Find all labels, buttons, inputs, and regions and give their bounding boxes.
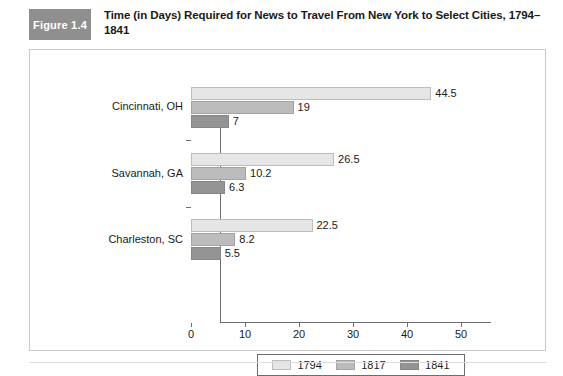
chart-legend: 179418171841: [257, 354, 465, 376]
legend-item-1841[interactable]: 1841: [400, 359, 449, 371]
figure-header: Figure 1.4 Time (in Days) Required for N…: [29, 9, 547, 47]
figure-number-badge: Figure 1.4: [29, 9, 91, 40]
bar-value-label: 19: [294, 100, 310, 114]
x-axis-tick-label: 50: [455, 328, 467, 340]
bar-value-label: 26.5: [334, 152, 359, 166]
legend-label: 1841: [425, 359, 449, 371]
bar-1817[interactable]: [191, 167, 246, 180]
x-axis-tick: [191, 323, 192, 327]
legend-item-1817[interactable]: 1817: [336, 359, 385, 371]
legend-label: 1794: [297, 359, 321, 371]
bar-group: 22.58.25.5: [191, 219, 461, 261]
bar-row: 22.5: [191, 219, 461, 232]
bar-group: 26.510.26.3: [191, 153, 461, 195]
x-axis-tick-label: 40: [401, 328, 413, 340]
x-axis-tick-label: 30: [347, 328, 359, 340]
bottom-divider: [29, 362, 547, 363]
bar-value-label: 8.2: [235, 232, 254, 246]
x-axis-tick: [461, 323, 462, 327]
chart-panel: 0102030405044.5197Cincinnati, OH26.510.2…: [29, 49, 546, 351]
figure-title: Time (in Days) Required for News to Trav…: [104, 8, 549, 38]
category-label: Savannah, GA: [33, 167, 183, 179]
bar-value-label: 7: [229, 114, 239, 128]
bar-row: 26.5: [191, 153, 461, 166]
bar-1841[interactable]: [191, 115, 229, 128]
y-axis-tick: [186, 140, 191, 141]
bar-row: 8.2: [191, 233, 461, 246]
bar-1817[interactable]: [191, 233, 235, 246]
bar-row: 5.5: [191, 247, 461, 260]
bar-row: 10.2: [191, 167, 461, 180]
x-axis-line: [220, 322, 491, 323]
bar-1841[interactable]: [191, 247, 221, 260]
legend-label: 1817: [361, 359, 385, 371]
x-axis-tick-label: 10: [239, 328, 251, 340]
bar-row: 19: [191, 101, 461, 114]
bar-value-label: 5.5: [221, 246, 240, 260]
bar-value-label: 10.2: [246, 166, 271, 180]
x-axis-tick: [353, 323, 354, 327]
bar-value-label: 6.3: [225, 180, 244, 194]
y-axis-tick: [186, 207, 191, 208]
x-axis-tick: [299, 323, 300, 327]
x-axis-tick-label: 0: [188, 328, 194, 340]
bar-1794[interactable]: [191, 153, 334, 166]
bar-row: 7: [191, 115, 461, 128]
bar-1794[interactable]: [191, 219, 313, 232]
legend-item-1794[interactable]: 1794: [272, 359, 321, 371]
bar-row: 44.5: [191, 87, 461, 100]
x-axis-tick-label: 20: [293, 328, 305, 340]
bar-group: 44.5197: [191, 87, 461, 129]
category-label: Charleston, SC: [33, 233, 183, 245]
bar-row: 6.3: [191, 181, 461, 194]
x-axis-tick: [407, 323, 408, 327]
bar-1794[interactable]: [191, 87, 431, 100]
x-axis-tick: [245, 323, 246, 327]
bar-value-label: 44.5: [431, 86, 456, 100]
bar-1817[interactable]: [191, 101, 294, 114]
category-label: Cincinnati, OH: [33, 100, 183, 112]
bar-value-label: 22.5: [313, 218, 338, 232]
bar-1841[interactable]: [191, 181, 225, 194]
